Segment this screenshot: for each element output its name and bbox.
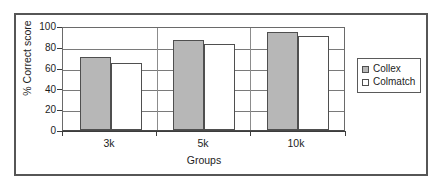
chart-legend: Collex Colmatch [357,58,421,93]
legend-swatch-colmatch-icon [362,79,369,86]
x-axis-title: Groups [62,154,346,166]
legend-label-colmatch: Colmatch [373,77,415,87]
legend-label-collex: Collex [373,64,401,74]
bar-colmatch-5k [204,44,235,130]
x-tick-label-3k: 3k [79,138,139,149]
bar-colmatch-3k [111,63,142,130]
x-axis-tick-1 [156,131,157,136]
bars-layer [63,28,344,130]
y-tick-label-0: 0 [4,126,56,136]
x-axis-tick-left [62,131,63,136]
y-axis-title: % Correct score [21,0,33,118]
plot-area [62,27,345,131]
x-tick-label-10k: 10k [266,138,326,149]
x-tick-label-5k: 5k [173,138,233,149]
legend-item-collex: Collex [362,63,415,75]
legend-swatch-collex-icon [362,66,369,73]
bar-collex-3k [80,57,111,130]
x-axis-line [62,131,346,132]
bar-chart-figure: 100 80 60 40 20 0 % Correct score [0,0,444,189]
bar-collex-5k [173,40,204,130]
legend-item-colmatch: Colmatch [362,76,415,88]
x-axis-tick-2 [250,131,251,136]
bar-collex-10k [267,32,298,130]
bar-colmatch-10k [298,36,329,130]
x-axis-tick-right [345,131,346,136]
